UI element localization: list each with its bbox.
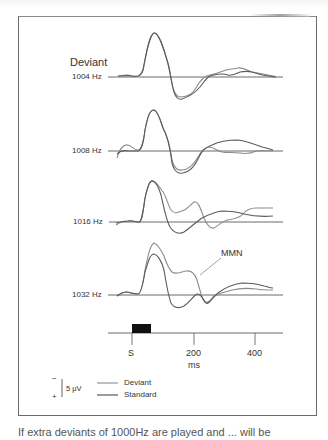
time-axis bbox=[108, 324, 283, 345]
axis-unit-label: ms bbox=[188, 360, 200, 370]
tick-400: 400 bbox=[247, 348, 262, 358]
baselines bbox=[108, 77, 283, 295]
panel-1016 bbox=[116, 181, 273, 234]
legend-standard-label: Standard bbox=[124, 390, 156, 399]
mmn-pointer-line bbox=[200, 258, 221, 275]
tick-stimulus-onset: S bbox=[128, 348, 134, 358]
scale-minus: − bbox=[52, 374, 57, 383]
legend-deviant-label: Deviant bbox=[124, 378, 151, 387]
scale-plus: + bbox=[52, 392, 57, 401]
stimulus-bar bbox=[132, 324, 151, 333]
tick-200: 200 bbox=[186, 348, 201, 358]
panel-1004 bbox=[118, 33, 276, 99]
panel-1032 bbox=[117, 243, 273, 308]
scale-label: 5 μV bbox=[66, 384, 82, 393]
panel-1008 bbox=[117, 110, 273, 173]
figure-caption-clipped: If extra deviants of 1000Hz are played a… bbox=[18, 426, 318, 440]
